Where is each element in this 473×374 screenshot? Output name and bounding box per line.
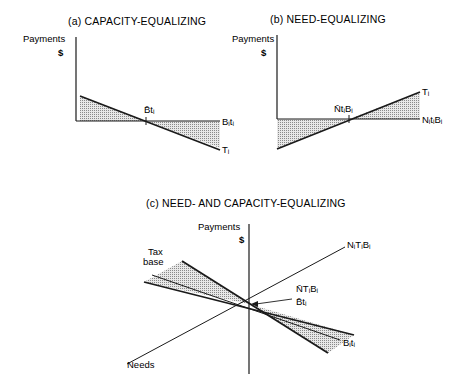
panel-c-upper-boundary-line	[182, 261, 328, 353]
panel-c-shaded-wedge-right	[249, 304, 354, 353]
panel-c-y-axis-label: Payments	[198, 221, 240, 232]
panel-b-title: (b) NEED-EQUALIZING	[270, 13, 386, 25]
panel-b-horizontal-line-label: NᵢtᵢBᵢ	[422, 114, 443, 125]
panel-c-needs-label: Needs	[127, 359, 155, 370]
panel-a-capacity-equalizing: (a) CAPACITY-EQUALIZING Payments $ B̄tᵢ …	[23, 15, 234, 155]
panel-c-capacity-line-label: Bᵢtᵢ	[343, 337, 355, 348]
panel-a-y-axis-label: Payments	[23, 33, 65, 44]
panel-a-sloped-line-label: Tᵢ	[222, 144, 230, 155]
panel-c-tax-label-line2: base	[143, 256, 164, 267]
panel-b-y-axis-unit: $	[261, 47, 267, 58]
panel-b-sloped-line-label: Tᵢ	[422, 86, 430, 97]
panel-c-pointer-arrow	[256, 299, 292, 304]
figure-canvas: (a) CAPACITY-EQUALIZING Payments $ B̄tᵢ …	[0, 0, 473, 374]
panel-b-need-equalizing: (b) NEED-EQUALIZING Payments $ N̄tᵢBᵢ Nᵢ…	[232, 13, 443, 149]
panel-b-mean-point-label: N̄tᵢBᵢ	[334, 103, 353, 114]
panel-c-y-axis-unit: $	[239, 234, 245, 245]
panel-c-shaded-wedge-left	[144, 261, 249, 304]
panel-a-title: (a) CAPACITY-EQUALIZING	[68, 15, 206, 27]
panel-b-y-axis-label: Payments	[232, 33, 274, 44]
panel-c-need-line-label: NᵢTᵢBᵢ	[347, 239, 371, 250]
panel-a-y-axis-unit: $	[58, 47, 64, 58]
panel-a-horizontal-line-label: Bᵢtᵢ	[222, 116, 234, 127]
panel-c-title: (c) NEED- AND CAPACITY-EQUALIZING	[146, 197, 346, 209]
panel-c-mean-need-label: N̄TᵢBᵢ	[296, 283, 318, 294]
panel-c-mean-capacity-label: B̄tᵢ	[296, 296, 307, 307]
panel-c-need-and-capacity-equalizing: (c) NEED- AND CAPACITY-EQUALIZING Paymen…	[127, 197, 371, 374]
panel-a-mean-point-label: B̄tᵢ	[144, 104, 155, 115]
